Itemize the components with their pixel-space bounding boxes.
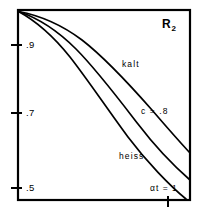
quantity-label-subscript: 2 (171, 24, 176, 33)
ytick-label-0.7: .7 (26, 108, 35, 118)
figure-container: .9 .7 .5 R2 kalt c = .8 heiss αt = 1 (0, 0, 206, 219)
curve-label-kalt: kalt (122, 60, 140, 69)
curve-label-c-value: c = .8 (141, 107, 169, 116)
curve-label-heiss: heiss (119, 152, 144, 161)
ytick-label-0.9: .9 (26, 40, 35, 50)
quantity-label: R2 (162, 18, 176, 30)
xaxis-note: αt = 1 (150, 184, 178, 193)
ytick-label-0.5: .5 (26, 183, 35, 193)
curve-c-08 (19, 12, 191, 181)
quantity-label-base: R (162, 17, 171, 31)
